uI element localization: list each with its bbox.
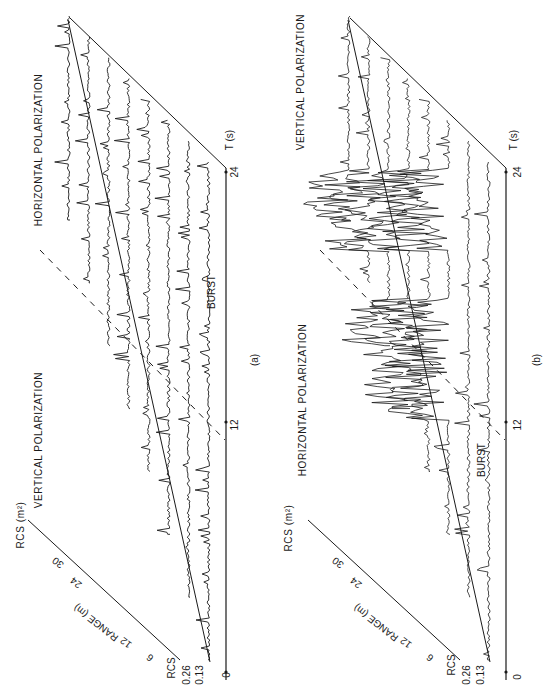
- panel-a-burst-label: BURST: [206, 275, 217, 309]
- panel-b-rcs-scale-label: RCS: [446, 654, 457, 675]
- panel-b-time-tick-12: 12: [512, 419, 523, 431]
- panel-b-time-tick-0: 0: [512, 674, 523, 680]
- panel-a-rcs-scale-label: RCS: [166, 657, 177, 678]
- panel-b-range-tick-6: 6: [424, 651, 436, 663]
- panel-b-range-tick-24: 24: [348, 575, 364, 591]
- figure: HORIZONTAL POLARIZATION VERTICAL POLARIZ…: [0, 0, 556, 694]
- panel-b-burst-label: BURST: [476, 443, 487, 477]
- panel-a-rcs-tick-013: 0.13: [194, 665, 205, 685]
- panel-a-caption: (a): [249, 354, 260, 366]
- panel-b-range-tick-12: 12: [398, 635, 414, 651]
- panel-a-range-tick-30: 30: [50, 555, 66, 571]
- panel-a-range-axis-label: RANGE (m): [71, 602, 120, 644]
- panel-a-right-title: HORIZONTAL POLARIZATION: [33, 74, 44, 227]
- panel-a-rcs-axis-label: RCS (m²): [15, 501, 26, 548]
- panel-b-right-title: VERTICAL POLARIZATION: [295, 14, 306, 150]
- panel-a: [28, 16, 228, 680]
- panel-b-rcs-axis-label: RCS (m²): [283, 504, 294, 551]
- panel-b-time-tick-24: 24: [512, 166, 523, 178]
- panel-b-left-title: HORIZONTAL POLARIZATION: [297, 324, 308, 477]
- panel-b-range-tick-30: 30: [330, 555, 346, 571]
- panel-a-rcs-tick-026: 0.26: [181, 665, 192, 685]
- figure-svg: HORIZONTAL POLARIZATION VERTICAL POLARIZ…: [0, 0, 556, 694]
- panel-a-left-title: VERTICAL POLARIZATION: [33, 372, 44, 508]
- panel-b-labels: VERTICAL POLARIZATION HORIZONTAL POLARIZ…: [283, 14, 542, 685]
- panel-a-range-tick-24: 24: [68, 575, 84, 591]
- panel-b-rcs-tick-013: 0.13: [475, 665, 486, 685]
- panel-b-range-axis-label: RANGE (m): [351, 602, 400, 644]
- panel-a-time-tick-24: 24: [229, 166, 240, 178]
- panel-a-range-tick-6: 6: [144, 651, 156, 663]
- panel-b-caption: (b): [531, 354, 542, 366]
- panel-a-time-axis-label: T (s): [224, 130, 235, 150]
- panel-b: [304, 16, 508, 680]
- panel-a-range-tick-12: 12: [118, 635, 134, 651]
- panel-b-time-axis-label: T (s): [508, 130, 519, 150]
- panel-a-time-tick-0: 0: [221, 672, 232, 678]
- panel-a-time-tick-12: 12: [229, 419, 240, 431]
- panel-b-rcs-tick-026: 0.26: [461, 665, 472, 685]
